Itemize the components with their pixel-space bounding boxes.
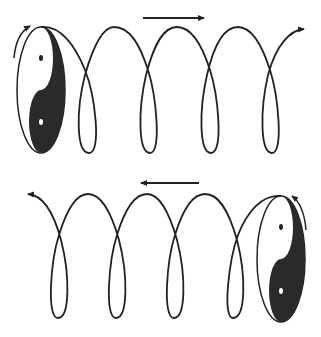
top-row (14, 18, 304, 153)
top-spiral (41, 27, 304, 153)
yin-yang-left (14, 26, 65, 153)
yin-yang-spiral-diagram (0, 0, 321, 337)
bottom-spiral (28, 194, 281, 318)
yin-yang-right (257, 196, 306, 322)
bottom-row (28, 183, 306, 322)
